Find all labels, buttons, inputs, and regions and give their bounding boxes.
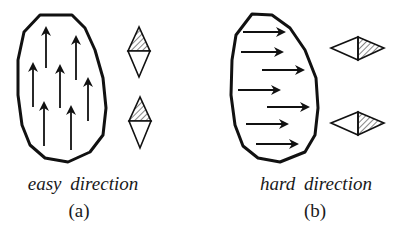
caption-hard-direction: hard direction: [260, 173, 372, 195]
caption-easy-direction: easy direction: [28, 173, 138, 195]
diagram-canvas: [0, 0, 403, 236]
compass-needle-b2: [331, 112, 384, 135]
domain-outline-a: [18, 15, 106, 162]
compass-needle-a2: [129, 97, 151, 148]
domain-outline-b: [231, 14, 318, 162]
panel-label-b: (b): [304, 200, 326, 222]
magnetization-arrows-right: [238, 32, 308, 144]
panel-b: [231, 14, 384, 162]
panel-a: [18, 15, 151, 162]
magnetization-arrows-up: [33, 28, 88, 150]
compass-needle-a1: [128, 27, 150, 77]
panel-label-a: (a): [68, 200, 89, 222]
compass-needle-b1: [331, 37, 384, 60]
